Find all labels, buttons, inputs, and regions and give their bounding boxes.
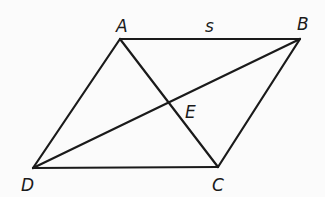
diagram-svg: A s B E D C: [0, 0, 325, 197]
vertex-label-a: A: [115, 16, 128, 36]
vertex-label-b: B: [297, 14, 309, 34]
vertex-label-c: C: [212, 175, 224, 195]
side-label-s: s: [205, 16, 214, 36]
parallelogram-diagram: A s B E D C: [0, 0, 325, 197]
intersection-label-e: E: [185, 102, 196, 122]
vertex-label-d: D: [21, 175, 34, 195]
side-da: [33, 39, 120, 168]
side-cd: [33, 167, 218, 168]
